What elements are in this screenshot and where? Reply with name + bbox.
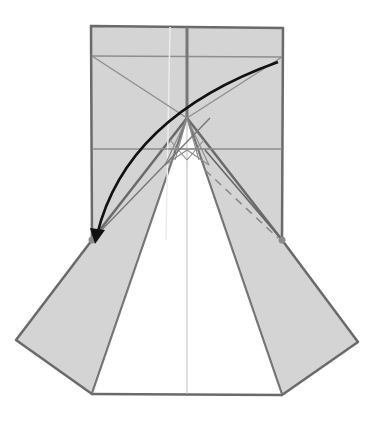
center-bottom-edge	[92, 394, 282, 395]
origami-diagram	[0, 0, 378, 423]
right-reference-point	[279, 237, 286, 244]
